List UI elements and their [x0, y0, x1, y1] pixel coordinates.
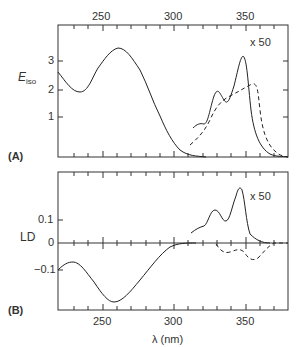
panel-b-ld-curve — [58, 243, 196, 302]
ylabel-a-main: E — [18, 70, 26, 84]
panel-a-y-ticks — [58, 61, 288, 117]
panel-a-x50-dashed-curve — [190, 84, 288, 157]
ylabel-a-sub: iso — [26, 77, 36, 86]
a-ytick-3: 3 — [48, 54, 54, 66]
panel-label-b: (B) — [8, 304, 23, 316]
panel-b-x50-dashed-curve — [216, 243, 288, 260]
bottom-tick-350: 350 — [236, 315, 254, 327]
panel-a-x50-solid-curve — [193, 56, 288, 157]
panel-a-iso-curve — [58, 48, 206, 157]
mult-a: x 50 — [250, 36, 271, 48]
a-ytick-2: 2 — [48, 83, 54, 95]
b-ytick-neg0.1: −0.1 — [34, 263, 56, 275]
top-tick-300: 300 — [164, 10, 182, 22]
bottom-tick-300: 300 — [164, 315, 182, 327]
b-ytick-0: 0 — [48, 236, 54, 248]
ylabel-b: LD — [20, 230, 35, 244]
panel-b-top-ticks — [74, 172, 274, 178]
panel-a-top-ticks — [74, 25, 274, 31]
top-tick-350: 350 — [236, 10, 254, 22]
panel-b-bottom-ticks — [74, 304, 274, 310]
bottom-tick-250: 250 — [93, 315, 111, 327]
panel-b-y-ticks — [58, 220, 63, 270]
spectra-figure — [0, 0, 298, 347]
ylabel-a: Eiso — [18, 70, 36, 86]
mult-b: x 50 — [250, 190, 271, 202]
panel-label-a: (A) — [8, 150, 23, 162]
top-tick-250: 250 — [92, 10, 110, 22]
panel-a-bottom-ticks — [74, 151, 274, 157]
a-ytick-1: 1 — [48, 110, 54, 122]
x-axis-label: λ (nm) — [152, 333, 183, 345]
b-ytick-0.1: 0.1 — [38, 213, 53, 225]
